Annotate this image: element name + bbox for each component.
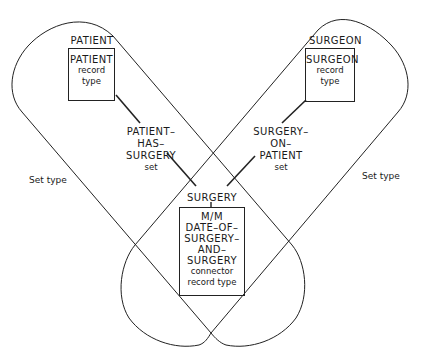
patient-owner-label: PATIENT	[68, 35, 116, 47]
set-left-line4: set	[118, 162, 184, 173]
connector-line4: AND–	[180, 244, 244, 255]
surgery-owner-label: SURGERY	[180, 192, 244, 204]
set-type-label-right: Set type	[362, 171, 400, 182]
patient-box-sub2: type	[69, 76, 114, 87]
set-right-line1: SURGERY–	[245, 126, 317, 138]
set-left-line1: PATIENT–	[118, 126, 184, 138]
connector-line7: record type	[180, 277, 244, 288]
patient-record-type-box[interactable]: PATIENT record type	[68, 48, 115, 101]
connector-line3: SURGERY–	[180, 233, 244, 244]
set-right-line2: ON–	[245, 138, 317, 150]
connector-line1: M/M	[180, 211, 244, 222]
patient-has-surgery-set-label: PATIENT– HAS– SURGERY set	[118, 126, 184, 173]
connector-line6: connector	[180, 266, 244, 277]
set-type-outline-right	[121, 19, 408, 346]
patient-set-link-upper	[116, 95, 140, 123]
surgeon-box-sub2: type	[306, 76, 354, 87]
connector-line2: DATE–OF–	[180, 222, 244, 233]
patient-box-sub1: record	[69, 65, 114, 76]
surgeon-record-type-box[interactable]: SURGEON record type	[305, 48, 355, 102]
surgeon-set-link-upper	[282, 100, 306, 123]
set-right-line4: set	[245, 162, 317, 173]
surgeon-box-sub1: record	[306, 65, 354, 76]
surgeon-owner-label: SURGEON	[309, 35, 361, 47]
set-right-line3: PATIENT	[245, 150, 317, 162]
patient-box-title: PATIENT	[69, 54, 114, 65]
connector-record-type-box[interactable]: M/M DATE–OF– SURGERY– AND– SURGERY conne…	[179, 207, 245, 296]
set-type-label-left: Set type	[29, 175, 67, 186]
surgeon-box-title: SURGEON	[306, 54, 354, 65]
connector-line5: SURGERY	[180, 255, 244, 266]
set-left-line2: HAS–	[118, 138, 184, 150]
surgery-on-patient-set-label: SURGERY– ON– PATIENT set	[245, 126, 317, 173]
set-left-line3: SURGERY	[118, 150, 184, 162]
